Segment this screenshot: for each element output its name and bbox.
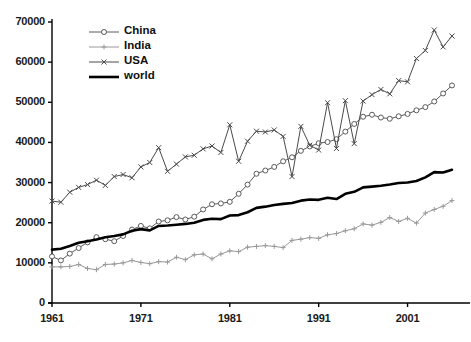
data-point-marker xyxy=(316,236,321,241)
y-tick-label: 60000 xyxy=(15,55,45,67)
data-point-marker xyxy=(254,171,259,176)
y-tick-label: 50000 xyxy=(15,95,45,107)
data-point-marker xyxy=(343,129,348,134)
x-tick-label: 1991 xyxy=(289,312,349,324)
data-point-marker xyxy=(423,105,428,110)
data-point-marker xyxy=(85,266,90,271)
data-point-marker xyxy=(58,264,63,269)
x-tick-label: 2001 xyxy=(378,312,438,324)
x-tick-label: 1961 xyxy=(22,312,82,324)
data-point-marker xyxy=(361,114,366,119)
data-point-marker xyxy=(281,159,286,164)
data-point-marker xyxy=(210,256,215,261)
data-point-marker xyxy=(370,223,375,228)
data-point-marker xyxy=(165,169,170,174)
data-point-marker xyxy=(147,160,152,165)
data-point-marker xyxy=(102,29,107,34)
data-point-marker xyxy=(245,182,250,187)
legend-key-icon xyxy=(88,69,120,81)
data-point-marker xyxy=(138,164,143,169)
data-point-marker xyxy=(112,262,117,267)
data-point-marker xyxy=(50,264,55,269)
data-point-marker xyxy=(76,262,81,267)
data-point-marker xyxy=(396,114,401,119)
data-point-marker xyxy=(450,83,455,88)
y-tick-label: 20000 xyxy=(15,216,45,228)
data-point-marker xyxy=(370,112,375,117)
data-point-marker xyxy=(85,182,90,187)
data-point-marker xyxy=(201,207,206,212)
legend-key-icon xyxy=(88,39,120,51)
data-point-marker xyxy=(263,168,268,173)
legend-label: India xyxy=(124,39,151,51)
data-point-marker xyxy=(112,239,117,244)
data-point-marker xyxy=(334,231,339,236)
legend-key-icon xyxy=(88,24,120,36)
data-point-marker xyxy=(138,223,143,228)
data-point-marker xyxy=(192,214,197,219)
legend-label: world xyxy=(124,69,155,81)
data-point-marker xyxy=(130,258,135,263)
data-point-marker xyxy=(174,162,179,167)
data-point-marker xyxy=(218,252,223,257)
legend-label: China xyxy=(124,24,156,36)
data-point-marker xyxy=(450,198,455,203)
y-tick-label: 40000 xyxy=(15,135,45,147)
data-point-marker xyxy=(210,144,215,149)
data-point-marker xyxy=(183,217,188,222)
x-tick-label: 1981 xyxy=(200,312,260,324)
data-point-marker xyxy=(94,267,99,272)
y-tick-label: 70000 xyxy=(15,15,45,27)
data-point-marker xyxy=(441,91,446,96)
data-point-marker xyxy=(432,99,437,104)
data-point-marker xyxy=(423,48,428,53)
data-point-marker xyxy=(378,220,383,225)
legend-label: USA xyxy=(124,54,148,66)
data-point-marker xyxy=(130,175,135,180)
data-point-marker xyxy=(165,260,170,265)
data-point-marker xyxy=(370,92,375,97)
data-point-marker xyxy=(387,116,392,121)
data-point-marker xyxy=(227,199,232,204)
data-point-marker xyxy=(414,56,419,61)
legend-item-world: world xyxy=(88,67,156,82)
data-point-marker xyxy=(378,115,383,120)
data-point-marker xyxy=(272,244,277,249)
legend-key-icon xyxy=(88,54,120,66)
x-tick-label: 1971 xyxy=(111,312,171,324)
plot-area xyxy=(0,0,471,342)
data-point-marker xyxy=(290,155,295,160)
data-point-marker xyxy=(156,219,161,224)
data-point-marker xyxy=(298,148,303,153)
data-point-marker xyxy=(236,249,241,254)
line-chart: 0100002000030000400005000060000700001961… xyxy=(0,0,471,342)
chart-legend: ChinaIndiaUSAworld xyxy=(88,22,156,82)
legend-item-china: China xyxy=(88,22,156,37)
data-point-marker xyxy=(432,207,437,212)
data-point-marker xyxy=(67,264,72,269)
data-point-marker xyxy=(156,259,161,264)
data-point-marker xyxy=(307,235,312,240)
data-point-marker xyxy=(387,215,392,220)
y-tick-label: 0 xyxy=(39,296,45,308)
data-point-marker xyxy=(414,108,419,113)
data-point-marker xyxy=(50,254,55,259)
data-point-marker xyxy=(94,178,99,183)
data-point-marker xyxy=(67,190,72,195)
legend-item-usa: USA xyxy=(88,52,156,67)
data-point-marker xyxy=(76,246,81,251)
data-point-marker xyxy=(67,251,72,256)
data-point-marker xyxy=(138,260,143,265)
data-point-marker xyxy=(102,44,107,49)
data-point-marker xyxy=(245,245,250,250)
data-point-marker xyxy=(227,248,232,253)
data-point-marker xyxy=(192,252,197,257)
data-point-marker xyxy=(325,140,330,145)
data-point-marker xyxy=(236,191,241,196)
data-point-marker xyxy=(441,204,446,209)
data-point-marker xyxy=(174,215,179,220)
data-point-marker xyxy=(201,252,206,257)
data-point-marker xyxy=(263,243,268,248)
y-tick-label: 10000 xyxy=(15,256,45,268)
data-point-marker xyxy=(387,91,392,96)
